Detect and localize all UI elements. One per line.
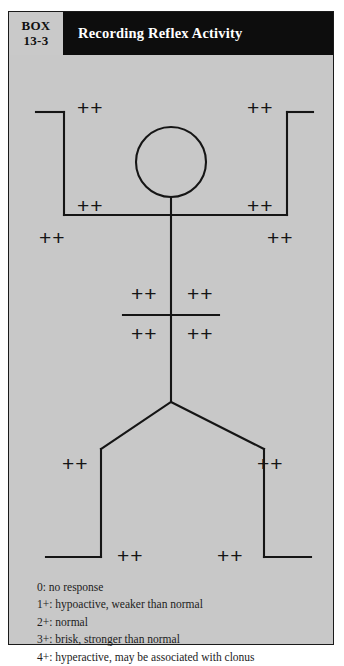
reflex-mark-right-achilles: ++: [217, 545, 244, 566]
reflex-mark-left-patellar: ++: [62, 453, 89, 474]
legend-line-4: 4+: hyperactive, may be associated with …: [37, 649, 307, 666]
head-circle: [136, 127, 206, 197]
box-title: Recording Reflex Activity: [64, 12, 333, 55]
reflex-grading-legend: 0: no response 1+: hypoactive, weaker th…: [37, 579, 307, 666]
reflex-mark-left-achilles: ++: [117, 545, 144, 566]
box-number-word: BOX: [21, 19, 50, 34]
reflex-mark-abdominal-upper-right: ++: [187, 283, 214, 304]
left-hip-line: [101, 402, 171, 449]
reflex-mark-right-biceps: ++: [247, 97, 274, 118]
legend-line-3: 3+: brisk, stronger than normal: [37, 631, 307, 648]
reflex-mark-abdominal-lower-left: ++: [131, 323, 158, 344]
reflex-mark-right-brachioradialis: ++: [247, 195, 274, 216]
legend-line-0: 0: no response: [37, 579, 307, 596]
reflex-mark-abdominal-upper-left: ++: [131, 283, 158, 304]
legend-line-1: 1+: hypoactive, weaker than normal: [37, 596, 307, 613]
box-header: BOX 13-3 Recording Reflex Activity: [9, 12, 333, 55]
legend-line-2: 2+: normal: [37, 614, 307, 631]
reflex-activity-box: BOX 13-3 Recording Reflex Activity: [8, 11, 334, 645]
reflex-mark-left-biceps: ++: [77, 97, 104, 118]
right-hip-line: [171, 402, 264, 449]
box-number-tag: BOX 13-3: [9, 12, 64, 55]
reflex-mark-right-triceps: ++: [267, 227, 294, 248]
reflex-stick-figure: ++ ++ ++ ++ ++ ++ ++ ++ ++ ++ ++ ++ ++ +…: [9, 55, 333, 575]
reflex-mark-left-brachioradialis: ++: [77, 195, 104, 216]
reflex-mark-right-patellar: ++: [257, 453, 284, 474]
reflex-mark-abdominal-lower-right: ++: [187, 323, 214, 344]
stick-figure-drawing: [9, 55, 335, 575]
reflex-mark-left-triceps: ++: [39, 227, 66, 248]
box-number-value: 13-3: [23, 34, 48, 49]
